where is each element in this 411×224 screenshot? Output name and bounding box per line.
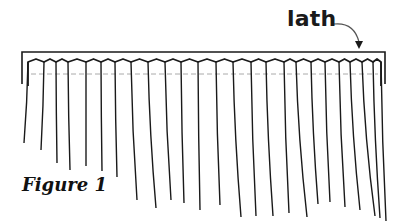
curtain-strands xyxy=(24,62,386,221)
figure-container: lath Figure 1 xyxy=(0,0,411,224)
curtain-strand xyxy=(24,62,28,143)
curtain-strand xyxy=(216,62,220,205)
curtain-strand xyxy=(41,62,44,150)
curtain-strand xyxy=(148,62,156,208)
curtain-strand xyxy=(131,62,137,200)
arrowhead-icon xyxy=(355,41,363,49)
curtain-strand xyxy=(373,62,380,218)
curtain-strand xyxy=(381,62,386,221)
curtain-strand xyxy=(339,62,345,207)
pointer-arrow-icon xyxy=(334,24,359,42)
figure-caption: Figure 1 xyxy=(22,174,107,195)
lath-label: lath xyxy=(287,6,336,31)
curtain-strand xyxy=(251,62,256,216)
curtain-strand xyxy=(56,62,57,163)
curtain-strand xyxy=(284,62,289,213)
curtain-strand xyxy=(325,62,330,202)
curtain-strand xyxy=(266,62,273,216)
curtain-strand xyxy=(311,62,318,204)
curtain-strand xyxy=(296,62,307,217)
curtain-heading xyxy=(28,59,381,86)
curtain-strand xyxy=(350,62,360,210)
curtain-strand xyxy=(198,62,200,210)
curtain-strand xyxy=(68,62,70,170)
curtain-strand xyxy=(181,62,184,203)
curtain-strand xyxy=(101,62,102,171)
lath-frame xyxy=(22,52,385,84)
curtain-strand xyxy=(233,62,241,217)
curtain-strand xyxy=(115,62,117,177)
curtain-strand xyxy=(165,62,171,200)
